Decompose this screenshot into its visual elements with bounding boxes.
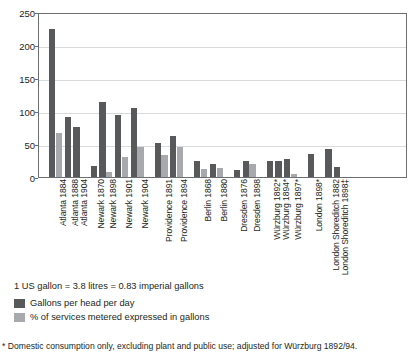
bar-gallons-per-head — [210, 164, 216, 177]
gridline — [39, 80, 406, 81]
legend-item: % of services metered expressed in gallo… — [14, 312, 344, 322]
bar-gallons-per-head — [284, 159, 290, 177]
x-axis-label: Atlanta 1884 — [58, 179, 68, 226]
bar-percent-metered — [177, 147, 183, 177]
bar-percent-metered — [291, 174, 297, 177]
gridline — [39, 47, 406, 48]
bar-percent-metered — [137, 147, 143, 177]
x-axis-label: Dresden 1876 — [239, 179, 249, 232]
x-axis-label: Würzburg 1894* — [281, 179, 291, 240]
bar-gallons-per-head — [275, 161, 281, 177]
x-axis-label: Newark 1898 — [108, 179, 118, 229]
y-tick-label: 250 — [1, 8, 35, 19]
bar-gallons-per-head — [308, 154, 314, 177]
y-tick-label: 100 — [1, 107, 35, 118]
y-tick-label: 0 — [1, 173, 35, 184]
legend-item: Gallons per head per day — [14, 298, 344, 308]
bar-percent-metered — [122, 157, 128, 177]
x-axis-label: Newark 1904 — [140, 179, 150, 229]
bar-gallons-per-head — [91, 166, 97, 177]
bar-percent-metered — [217, 168, 223, 177]
conversion-note: 1 US gallon = 3.8 litres = 0.83 imperial… — [14, 281, 344, 291]
footnote: * Domestic consumption only, excluding p… — [2, 341, 357, 351]
bar-gallons-per-head — [131, 108, 137, 177]
y-tick-mark — [35, 112, 38, 113]
bar-gallons-per-head — [65, 117, 71, 177]
bar-gallons-per-head — [155, 143, 161, 177]
bar-gallons-per-head — [115, 115, 121, 177]
gridline — [39, 113, 406, 114]
bar-gallons-per-head — [243, 161, 249, 178]
bar-percent-metered — [56, 133, 62, 177]
x-axis-label: Newark 1901 — [124, 179, 134, 229]
y-tick-mark — [35, 46, 38, 47]
bar-percent-metered — [106, 172, 112, 177]
x-axis-label: Würzburg 1897* — [293, 179, 303, 240]
legend-label: % of services metered expressed in gallo… — [30, 312, 209, 322]
plot-wrapper: US gallons per head per day 050100150200… — [38, 13, 407, 178]
bar-gallons-per-head — [334, 167, 340, 177]
legend: Gallons per head per day% of services me… — [14, 298, 344, 322]
bar-gallons-per-head — [267, 161, 273, 178]
bar-percent-metered — [161, 155, 167, 177]
bar-gallons-per-head — [99, 102, 105, 177]
x-axis-label: Berlin 1880 — [219, 179, 229, 221]
y-tick-mark — [35, 13, 38, 14]
legend-swatch-icon — [14, 299, 25, 308]
notes-block: 1 US gallon = 3.8 litres = 0.83 imperial… — [14, 281, 344, 326]
gridline — [39, 146, 406, 147]
x-axis-label: Newark 1870 — [96, 179, 106, 229]
x-axis-labels: Atlanta 1884Atlanta 1888Atlanta 1904Newa… — [38, 179, 407, 275]
y-tick-label: 200 — [1, 41, 35, 52]
bar-gallons-per-head — [325, 149, 331, 177]
bar-gallons-per-head — [170, 136, 176, 177]
bar-gallons-per-head — [234, 170, 240, 177]
x-axis-label: Providence 1891 — [164, 179, 174, 242]
x-axis-label: Providence 1894 — [179, 179, 189, 242]
x-axis-label: Dresden 1898 — [252, 179, 262, 232]
y-tick-label: 150 — [1, 74, 35, 85]
bar-gallons-per-head — [194, 161, 200, 177]
bar-gallons-per-head — [73, 127, 79, 177]
plot-area — [38, 13, 407, 178]
bar-chart-figure: US gallons per head per day 050100150200… — [0, 0, 412, 356]
x-axis-label: Atlanta 1904 — [79, 179, 89, 226]
y-tick-label: 50 — [1, 140, 35, 151]
legend-label: Gallons per head per day — [30, 298, 134, 308]
bar-percent-metered — [201, 169, 207, 177]
bar-gallons-per-head — [49, 29, 55, 178]
x-axis-label: London Shoreditch 1898‡ — [340, 179, 350, 275]
y-tick-mark — [35, 145, 38, 146]
legend-swatch-icon — [14, 313, 25, 322]
x-axis-label: Berlin 1868 — [203, 179, 213, 221]
bar-percent-metered — [249, 164, 255, 177]
y-tick-mark — [35, 79, 38, 80]
x-axis-label: London 1898* — [314, 179, 324, 231]
